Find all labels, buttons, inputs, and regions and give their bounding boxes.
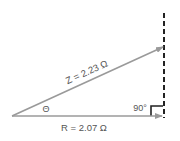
right-angle-marker bbox=[151, 106, 163, 116]
resistance-label: R = 2.07 Ω bbox=[61, 122, 107, 133]
right-angle-label: 90° bbox=[133, 103, 147, 113]
theta-angle-label: Θ bbox=[42, 104, 49, 114]
impedance-triangle-diagram: Z = 2.23 Ω Θ 90° R = 2.07 Ω bbox=[0, 0, 180, 141]
